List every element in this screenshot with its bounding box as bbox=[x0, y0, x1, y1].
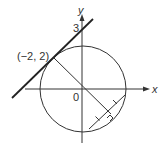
diagram-canvas: y 3 (−2, 2) 0 x bbox=[0, 0, 162, 149]
origin-label: 0 bbox=[73, 91, 79, 103]
x-axis-arrow-icon bbox=[143, 87, 150, 92]
y-axis-label: y bbox=[77, 4, 85, 16]
x-axis-label: x bbox=[151, 83, 158, 95]
tick-mark bbox=[96, 117, 100, 121]
tick-mark bbox=[113, 100, 117, 104]
tangent-point-label: (−2, 2) bbox=[17, 50, 49, 62]
y-intercept-label: 3 bbox=[73, 22, 79, 34]
